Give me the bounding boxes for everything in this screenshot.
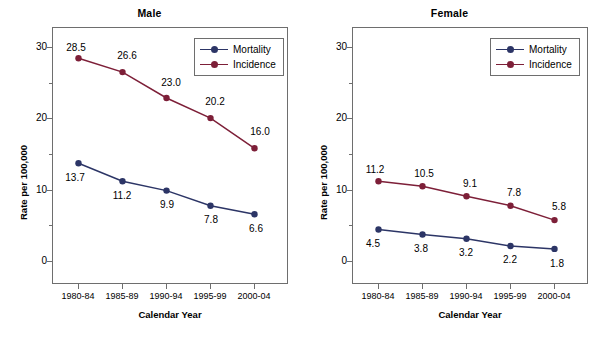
x-tick-3: [166, 284, 167, 289]
data-label-incidence-5: 16.0: [243, 126, 277, 137]
y-tick-15: [49, 154, 52, 155]
legend-marker-incidence-icon: [496, 59, 524, 71]
x-tick-2: [122, 284, 123, 289]
y-tick-label-0: 0: [23, 255, 47, 266]
y-axis-label-male: Rate per 100,000: [18, 145, 29, 220]
y-tick-30: [347, 47, 352, 48]
y-tick-10: [347, 190, 352, 191]
x-tick-5: [554, 284, 555, 289]
y-tick-label-20: 20: [23, 112, 47, 123]
y-tick-15: [349, 154, 352, 155]
legend-label-mortality: Mortality: [529, 44, 567, 55]
data-label-mortality-2: 11.2: [105, 190, 139, 201]
data-label-incidence-4: 7.8: [497, 187, 531, 198]
y-tick-5: [49, 225, 52, 226]
legend-label-incidence: Incidence: [529, 59, 572, 70]
x-tick-5: [254, 284, 255, 289]
x-tick-3: [466, 284, 467, 289]
data-label-incidence-1: 11.2: [358, 164, 392, 175]
data-label-incidence-5: 5.8: [542, 201, 576, 212]
data-label-mortality-3: 9.9: [150, 199, 184, 210]
data-label-incidence-2: 10.5: [407, 168, 441, 179]
legend-item-mortality[interactable]: Mortality: [496, 42, 572, 57]
legend-label-incidence: Incidence: [233, 59, 276, 70]
y-tick-5: [349, 225, 352, 226]
legend-item-incidence[interactable]: Incidence: [200, 57, 276, 72]
data-label-incidence-3: 9.1: [453, 178, 487, 189]
y-tick-label-0: 0: [323, 255, 347, 266]
data-label-mortality-2: 3.8: [404, 243, 438, 254]
x-tick-label-5: 2000-04: [226, 291, 282, 301]
legend-male[interactable]: Mortality Incidence: [194, 38, 284, 76]
legend-marker-mortality-icon: [496, 44, 524, 56]
legend-item-incidence[interactable]: Incidence: [496, 57, 572, 72]
x-axis-label-male: Calendar Year: [52, 309, 288, 320]
x-tick-2: [422, 284, 423, 289]
legend-marker-mortality-icon: [200, 44, 228, 56]
data-label-mortality-4: 2.2: [493, 254, 527, 265]
legend-label-mortality: Mortality: [233, 44, 271, 55]
data-label-mortality-1: 13.7: [58, 172, 92, 183]
y-tick-30: [47, 47, 52, 48]
data-label-mortality-5: 6.6: [239, 223, 273, 234]
data-label-incidence-4: 20.2: [198, 96, 232, 107]
data-label-mortality-5: 1.8: [540, 258, 574, 269]
chart-panel-male: Male Rate per 100,000 0 10 20 30 1980-84…: [0, 0, 299, 337]
data-label-mortality-1: 4.5: [356, 238, 390, 249]
y-tick-20: [47, 118, 52, 119]
data-label-incidence-3: 23.0: [154, 77, 188, 88]
x-axis-label-female: Calendar Year: [352, 309, 588, 320]
chart-panel-female: Female Rate per 100,000 0 10 20 30 1980-…: [300, 0, 599, 337]
x-tick-1: [78, 284, 79, 289]
data-label-incidence-1: 28.5: [59, 42, 93, 53]
x-tick-4: [210, 284, 211, 289]
data-label-mortality-3: 3.2: [449, 247, 483, 258]
y-tick-label-20: 20: [323, 112, 347, 123]
y-tick-20: [347, 118, 352, 119]
y-tick-25: [49, 83, 52, 84]
legend-female[interactable]: Mortality Incidence: [490, 38, 580, 76]
data-label-mortality-4: 7.8: [194, 214, 228, 225]
y-tick-0: [347, 261, 352, 262]
y-tick-label-10: 10: [323, 184, 347, 195]
y-tick-label-10: 10: [23, 184, 47, 195]
x-tick-4: [510, 284, 511, 289]
panel-title-female: Female: [300, 7, 599, 19]
y-tick-25: [349, 83, 352, 84]
legend-marker-incidence-icon: [200, 59, 228, 71]
x-tick-label-5: 2000-04: [526, 291, 582, 301]
y-tick-label-30: 30: [23, 41, 47, 52]
figure-canvas: Male Rate per 100,000 0 10 20 30 1980-84…: [0, 0, 599, 337]
x-tick-1: [378, 284, 379, 289]
y-tick-10: [47, 190, 52, 191]
y-tick-0: [47, 261, 52, 262]
y-axis-label-female: Rate per 100,000: [318, 145, 329, 220]
y-tick-label-30: 30: [323, 41, 347, 52]
data-label-incidence-2: 26.6: [110, 50, 144, 61]
legend-item-mortality[interactable]: Mortality: [200, 42, 276, 57]
panel-title-male: Male: [0, 7, 299, 19]
